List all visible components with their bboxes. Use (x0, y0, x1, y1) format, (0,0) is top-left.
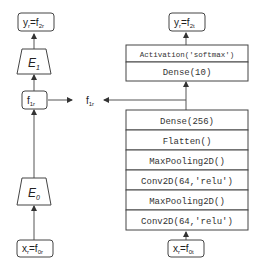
left-input-box: xr=f0r (17, 240, 53, 257)
middle-feature-label: f1r (86, 95, 94, 107)
right-input-box: xr=f0t (168, 240, 204, 257)
layer-activation-softmax: Activation('softmax') (140, 51, 235, 59)
layer-dense-256: Dense(256) (160, 117, 214, 127)
layer-conv2d-1: Conv2D(64,'relu') (141, 217, 233, 227)
layer-flatten: Flatten() (163, 137, 212, 147)
right-output-box: yr=f2t (169, 13, 205, 31)
feature-box-f1r: f1r (22, 91, 47, 109)
encoder-e1: E1 (17, 49, 51, 74)
feature-extractor-stack: Dense(256) Flatten() MaxPooling2D() Conv… (126, 110, 248, 230)
arrow-dense256-to-f1r (104, 100, 186, 110)
network-diagram: yr=f2r E1 f1r E0 xr=f0r f1r yr=f2t Activ… (0, 0, 259, 270)
left-output-box: yr=f2r (18, 13, 54, 31)
layer-maxpooling-2: MaxPooling2D() (149, 157, 225, 167)
layer-conv2d-2: Conv2D(64,'relu') (141, 177, 233, 187)
layer-dense-10: Dense(10) (163, 68, 212, 78)
classifier-head-stack: Activation('softmax') Dense(10) (126, 45, 248, 81)
encoder-e0: E0 (17, 178, 51, 205)
layer-maxpooling-1: MaxPooling2D() (149, 197, 225, 207)
